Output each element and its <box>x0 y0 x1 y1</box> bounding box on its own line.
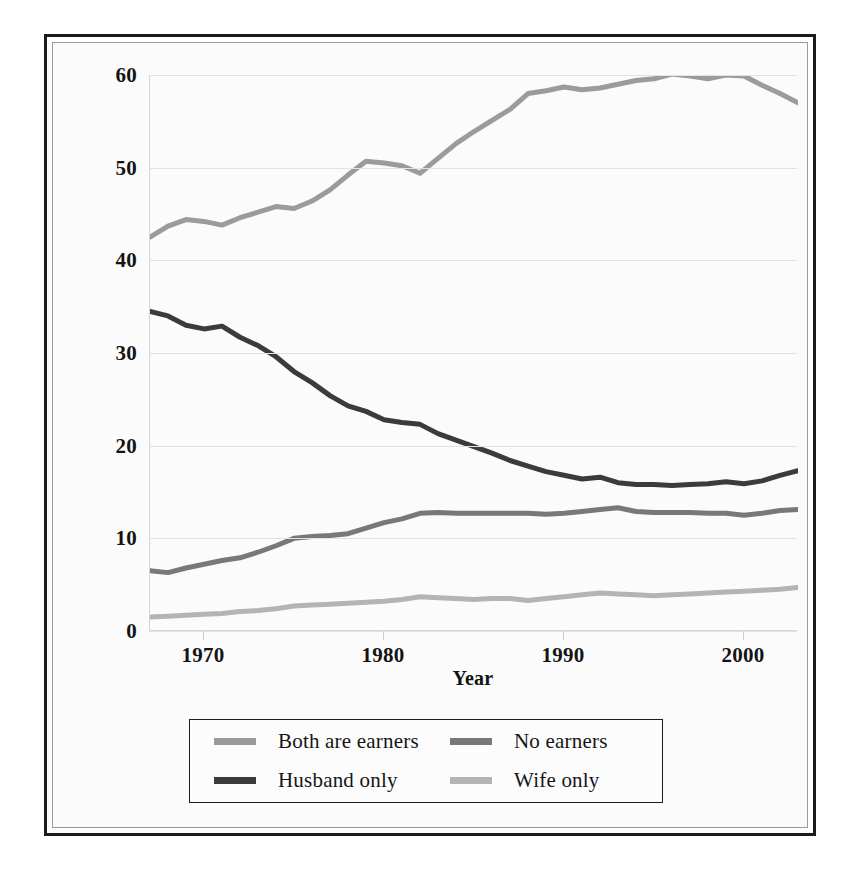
x-tick-label: 1970 <box>181 643 224 668</box>
plot-wrapper: 0102030405060 1970198019902000 <box>149 75 797 631</box>
series-line <box>150 587 798 617</box>
figure-inner-border: Percent of Married-Couple Families 01020… <box>52 42 808 828</box>
figure-outer-border: Percent of Married-Couple Families 01020… <box>44 34 816 836</box>
gridline <box>149 446 797 447</box>
y-tick-label: 10 <box>115 526 137 551</box>
x-tick-label: 1990 <box>541 643 584 668</box>
legend-label: Husband only <box>278 768 398 793</box>
legend-swatch-icon <box>214 777 256 784</box>
gridline <box>149 75 797 76</box>
y-tick-label: 20 <box>115 433 137 458</box>
gridline <box>149 353 797 354</box>
legend: Both are earners No earners Husband only… <box>189 719 663 803</box>
figure-root: Percent of Married-Couple Families 01020… <box>0 0 860 871</box>
legend-grid: Both are earners No earners Husband only… <box>190 720 662 802</box>
x-tick-label: 2000 <box>721 643 764 668</box>
legend-item-both-are-earners[interactable]: Both are earners <box>190 729 426 754</box>
x-tick-mark <box>743 631 744 640</box>
series-line <box>150 508 798 573</box>
x-tick-label: 1980 <box>361 643 404 668</box>
gridline <box>149 538 797 539</box>
legend-label: Both are earners <box>278 729 419 754</box>
y-tick-label: 40 <box>115 248 137 273</box>
legend-item-husband-only[interactable]: Husband only <box>190 768 426 793</box>
y-tick-label: 0 <box>126 619 137 644</box>
series-line <box>150 75 798 237</box>
x-axis-title: Year <box>149 667 797 690</box>
legend-item-wife-only[interactable]: Wife only <box>426 768 662 793</box>
legend-label: No earners <box>514 729 608 754</box>
gridline <box>149 260 797 261</box>
gridline <box>149 631 797 632</box>
legend-swatch-icon <box>450 777 492 784</box>
gridline <box>149 168 797 169</box>
y-tick-label: 30 <box>115 341 137 366</box>
x-tick-mark <box>203 631 204 640</box>
legend-label: Wife only <box>514 768 600 793</box>
y-tick-label: 50 <box>115 155 137 180</box>
x-tick-mark <box>563 631 564 640</box>
series-line <box>150 311 798 485</box>
x-tick-mark <box>383 631 384 640</box>
legend-item-no-earners[interactable]: No earners <box>426 729 662 754</box>
legend-swatch-icon <box>450 738 492 745</box>
y-tick-label: 60 <box>115 63 137 88</box>
legend-swatch-icon <box>214 738 256 745</box>
